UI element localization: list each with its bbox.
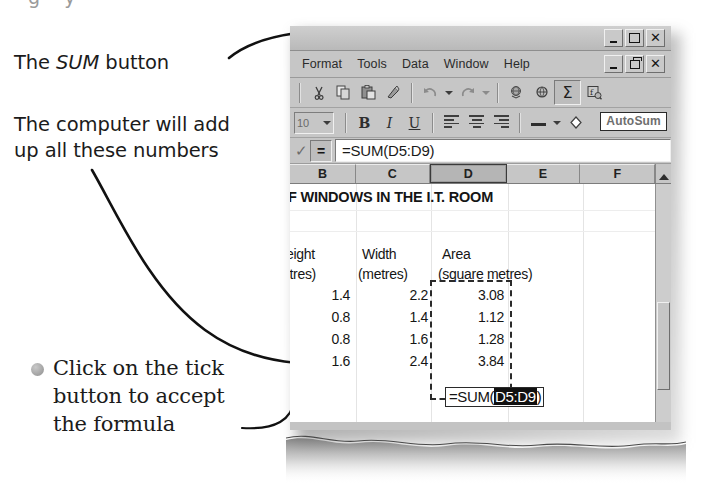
- menu-item-help[interactable]: Help: [504, 57, 530, 71]
- document-window-controls: ✕: [604, 55, 665, 73]
- align-right-icon[interactable]: [489, 111, 514, 134]
- header-width-line1: Width: [362, 246, 396, 262]
- column-header-e[interactable]: E: [507, 164, 581, 183]
- leader-line-tick-button: [242, 300, 297, 428]
- worksheet-grid: F WINDOWS IN THE I.T. ROOM eight etres) …: [290, 184, 671, 422]
- menu-bar: Format Tools Data Window Help ✕: [290, 51, 671, 78]
- vertical-scrollbar[interactable]: [655, 184, 671, 422]
- callout-sum-button: The SUM button: [14, 50, 169, 76]
- autosum-icon[interactable]: Σ: [554, 80, 581, 105]
- borders-chevron-down-icon[interactable]: [551, 111, 563, 134]
- column-header-b[interactable]: B: [290, 164, 356, 183]
- cell-width-r4[interactable]: 2.4: [362, 353, 428, 369]
- cell-formula-prefix: =SUM(: [449, 388, 494, 405]
- callout-computer-add: The computer will add up all these numbe…: [14, 112, 230, 164]
- toolbar-separator: [411, 83, 413, 103]
- toolbar-separator: [519, 113, 521, 133]
- bullet-click-tick-label: Click on the tick button to accept the f…: [53, 354, 225, 438]
- column-header-d[interactable]: D: [430, 164, 507, 183]
- standard-toolbar: Σ f: [290, 78, 671, 108]
- column-headers-row: B C D E F: [290, 164, 671, 184]
- web-toolbar-icon[interactable]: [529, 81, 554, 104]
- cell-formula-range: D5:D9: [494, 388, 537, 405]
- doc-close-button[interactable]: ✕: [646, 55, 665, 73]
- menu-item-data[interactable]: Data: [402, 57, 429, 71]
- doc-restore-button[interactable]: [625, 55, 644, 73]
- excel-window: ✕ Format Tools Data Window Help ✕: [290, 26, 671, 430]
- redo-dropdown-arrow-icon[interactable]: [480, 81, 492, 104]
- doc-minimize-button[interactable]: [604, 55, 623, 73]
- cell-height-r3[interactable]: 0.8: [290, 331, 350, 347]
- sheet-title: F WINDOWS IN THE I.T. ROOM: [290, 189, 493, 205]
- autosum-tooltip: AutoSum: [600, 112, 667, 131]
- fill-color-icon[interactable]: [563, 111, 588, 134]
- menu-item-tools[interactable]: Tools: [357, 57, 387, 71]
- gridline: [583, 184, 584, 422]
- gridline: [290, 210, 671, 211]
- paste-icon[interactable]: [356, 81, 381, 104]
- scroll-up-arrow-icon[interactable]: [655, 164, 671, 183]
- cell-width-r2[interactable]: 1.4: [362, 309, 428, 325]
- formula-input[interactable]: =SUM(D5:D9): [335, 139, 671, 162]
- vertical-scrollbar-thumb[interactable]: [657, 302, 670, 390]
- app-minimize-button[interactable]: [604, 29, 623, 47]
- app-maximize-button[interactable]: [625, 29, 644, 47]
- callout-sum-suffix: button: [99, 51, 169, 74]
- bold-button[interactable]: B: [352, 111, 377, 134]
- borders-icon[interactable]: [526, 111, 551, 134]
- cell-formula-editor[interactable]: =SUM(D5:D9): [445, 387, 544, 407]
- underline-button[interactable]: U: [402, 111, 427, 134]
- paste-function-icon[interactable]: f: [581, 81, 606, 104]
- font-size-chevron-down-icon[interactable]: [323, 121, 331, 125]
- formula-bar: ✓ = =SUM(D5:D9): [290, 138, 671, 164]
- bullet-dot-icon: [31, 363, 44, 376]
- clipped-text-sliver: g y: [28, 0, 75, 8]
- application-window-controls: ✕: [604, 29, 665, 47]
- header-area-line1: Area: [442, 246, 470, 262]
- font-size-value: 10: [297, 117, 309, 129]
- menu-item-format[interactable]: Format: [302, 57, 342, 71]
- italic-button[interactable]: I: [377, 111, 402, 134]
- header-width-line2: (metres): [358, 266, 408, 282]
- column-header-f[interactable]: F: [580, 164, 655, 183]
- align-center-icon[interactable]: [464, 111, 489, 134]
- undo-dropdown-arrow-icon[interactable]: [443, 81, 455, 104]
- undo-icon[interactable]: [418, 81, 443, 104]
- cell-height-r1[interactable]: 1.4: [290, 287, 350, 303]
- cell-width-r3[interactable]: 1.6: [362, 331, 428, 347]
- column-header-c[interactable]: C: [356, 164, 430, 183]
- toolbar-separator: [432, 113, 434, 133]
- header-height-line2: etres): [290, 266, 316, 282]
- application-title-bar: ✕: [290, 26, 671, 51]
- toolbar-separator: [497, 83, 499, 103]
- cell-height-r4[interactable]: 1.6: [290, 353, 350, 369]
- toolbar-separator: [299, 83, 301, 103]
- callout-sum-emphasis: SUM: [56, 51, 99, 74]
- font-size-combobox[interactable]: 10: [294, 112, 334, 134]
- gridline: [356, 184, 357, 422]
- redo-icon[interactable]: [455, 81, 480, 104]
- copy-icon[interactable]: [331, 81, 356, 104]
- cell-formula-suffix: ): [537, 388, 542, 405]
- cell-height-r2[interactable]: 0.8: [290, 309, 350, 325]
- align-left-icon[interactable]: [439, 111, 464, 134]
- bullet-click-tick: Click on the tick button to accept the f…: [31, 354, 225, 438]
- equals-button[interactable]: =: [310, 140, 332, 162]
- menu-item-window[interactable]: Window: [444, 57, 489, 71]
- cell-width-r1[interactable]: 2.2: [362, 287, 428, 303]
- format-painter-icon[interactable]: [381, 81, 406, 104]
- hyperlink-icon[interactable]: [504, 81, 529, 104]
- formatting-toolbar: 10 B I U AutoSum: [290, 108, 671, 138]
- selection-marching-ants: [430, 280, 512, 400]
- toolbar-separator: [345, 113, 347, 133]
- header-height-line1: eight: [290, 246, 315, 262]
- app-close-button[interactable]: ✕: [646, 29, 665, 47]
- callout-sum-prefix: The: [14, 51, 56, 74]
- cut-icon[interactable]: [306, 81, 331, 104]
- gridline: [290, 231, 671, 232]
- tick-icon[interactable]: ✓: [292, 141, 310, 161]
